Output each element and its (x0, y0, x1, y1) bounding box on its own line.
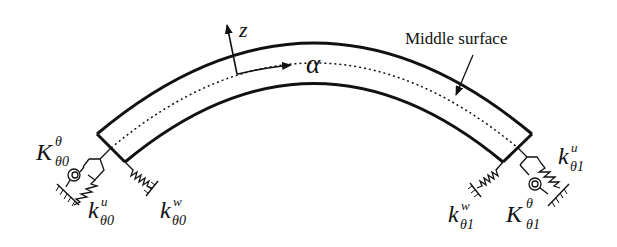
svg-text:k: k (448, 201, 459, 227)
svg-text:θ0: θ0 (172, 213, 186, 228)
right-normal-ground-hatch (468, 183, 481, 197)
svg-text:K: K (35, 139, 54, 165)
svg-text:θ: θ (526, 196, 533, 211)
z-axis-label: z (238, 17, 248, 42)
left-normal-spring-label: k w θ0 (160, 194, 186, 228)
coordinate-axes: z α (227, 17, 321, 79)
svg-text:k: k (88, 197, 99, 223)
left-rotational-spring-icon (66, 167, 84, 187)
left-rotational-spring-label: K θ θ0 (35, 134, 69, 169)
svg-text:θ0: θ0 (100, 213, 114, 228)
svg-text:θ1: θ1 (460, 217, 474, 232)
left-spring-frame (88, 159, 104, 180)
left-tangential-spring-label: k u θ0 (88, 194, 114, 228)
svg-text:w: w (173, 194, 182, 209)
right-normal-spring-label: k w θ1 (448, 198, 474, 232)
right-rotational-spring-label: K θ θ1 (505, 196, 540, 232)
left-ground-hatch (56, 184, 79, 206)
left-normal-spring-icon (125, 162, 152, 188)
svg-text:u: u (571, 140, 578, 155)
left-boundary-springs: K θ θ0 k u θ0 k w θ0 (35, 134, 186, 228)
svg-text:w: w (461, 198, 470, 213)
inner-edge (125, 84, 503, 163)
right-end-edge (503, 134, 532, 162)
right-tangential-spring-label: k u θ1 (558, 140, 584, 174)
svg-text:k: k (558, 143, 569, 169)
svg-text:θ0: θ0 (55, 154, 69, 169)
svg-text:k: k (160, 197, 171, 223)
z-axis-arrow (227, 25, 237, 74)
alpha-axis-arrow (237, 65, 291, 74)
curved-beam-diagram: z α Middle surface (0, 0, 617, 247)
right-spring-frame (520, 157, 541, 165)
svg-text:u: u (101, 194, 108, 209)
right-boundary-springs: k u θ1 k w θ1 K θ θ1 (448, 140, 584, 232)
middle-surface-label: Middle surface (405, 29, 507, 48)
alpha-axis-label: α (306, 49, 321, 79)
middle-surface-annotation: Middle surface (405, 29, 507, 95)
svg-text:K: K (505, 201, 524, 227)
right-normal-spring-icon (477, 162, 503, 188)
right-tangential-spring-icon (539, 163, 560, 188)
svg-text:θ: θ (55, 134, 62, 149)
svg-text:θ1: θ1 (570, 159, 584, 174)
svg-text:θ1: θ1 (526, 217, 540, 232)
right-rotational-spring-icon (529, 178, 548, 194)
